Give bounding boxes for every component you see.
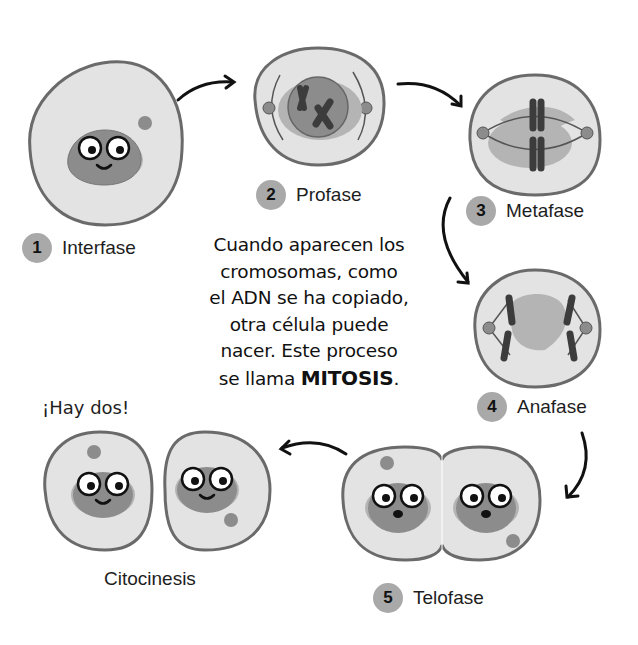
caption-line: nacer. Este proceso	[186, 338, 432, 365]
telofase-cell	[343, 447, 540, 560]
caption-prefix: se llama	[219, 368, 301, 389]
stage-name: Anafase	[517, 396, 587, 418]
stage-number-badge: 5	[373, 583, 403, 613]
stage-name: Telofase	[413, 587, 484, 609]
exclamation-text: ¡Hay dos!	[42, 397, 129, 418]
stage-name: Interfase	[62, 237, 136, 259]
stage-number-badge: 3	[466, 196, 496, 226]
mitosis-term: MITOSIS	[301, 366, 394, 390]
stage-number-badge: 1	[22, 233, 52, 263]
stage-name: Metafase	[506, 200, 584, 222]
stage-number-badge: 4	[477, 392, 507, 422]
caption-line: el ADN se ha copiado,	[186, 285, 432, 312]
stage-label-telofase: 5 Telofase	[373, 583, 484, 613]
anafase-cell	[475, 270, 600, 387]
stage-label-profase: 2 Profase	[256, 180, 361, 210]
stage-label-anafase: 4 Anafase	[477, 392, 587, 422]
metafase-cell	[470, 75, 600, 195]
caption-line: se llama MITOSIS.	[186, 365, 432, 393]
stage-label-interfase: 1 Interfase	[22, 233, 136, 263]
profase-cell	[255, 48, 384, 165]
interfase-cell	[30, 62, 183, 225]
stage-label-citocinesis: Citocinesis	[104, 568, 196, 590]
stage-label-metafase: 3 Metafase	[466, 196, 584, 226]
stage-number-badge: 2	[256, 180, 286, 210]
mitosis-caption: Cuando aparecen los cromosomas, como el …	[186, 232, 432, 392]
stage-name: Profase	[296, 184, 361, 206]
caption-line: Cuando aparecen los	[186, 232, 432, 259]
caption-line: cromosomas, como	[186, 259, 432, 286]
caption-suffix: .	[394, 368, 400, 389]
caption-line: otra célula puede	[186, 312, 432, 339]
citocinesis-cells	[45, 432, 270, 550]
